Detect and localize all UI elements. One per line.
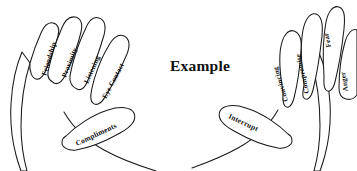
page-title: Example [163, 57, 237, 75]
right-hand-group: Convincing Compromise Fear Anger Interru… [192, 7, 357, 171]
left-hand-group: Friendship Proximity Listening Eye Conta… [11, 17, 156, 171]
left-hand-palm [11, 52, 30, 171]
figure-canvas: Friendship Proximity Listening Eye Conta… [0, 0, 357, 171]
hands-illustration: Friendship Proximity Listening Eye Conta… [0, 0, 357, 171]
